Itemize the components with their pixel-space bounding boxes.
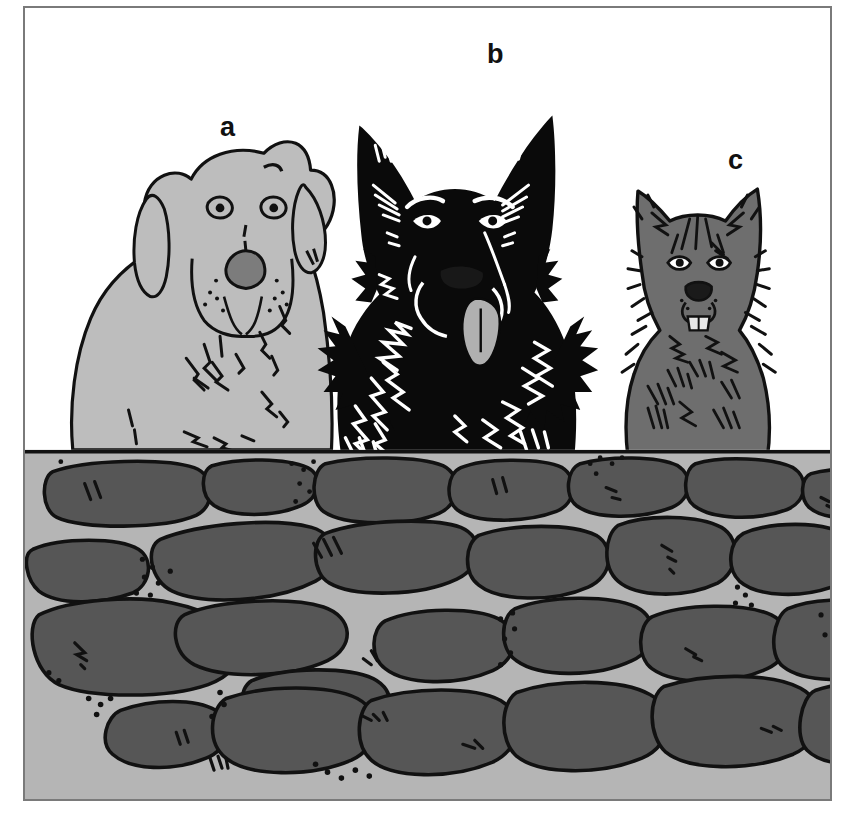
dog-a-ear-left bbox=[134, 195, 169, 296]
stone bbox=[203, 460, 317, 514]
stone bbox=[568, 458, 688, 516]
figure-frame: a b c bbox=[23, 6, 832, 801]
stone bbox=[504, 598, 653, 673]
stone bbox=[641, 606, 788, 681]
dog-c-pupil-left bbox=[676, 259, 684, 267]
panel-label-b: b bbox=[487, 41, 504, 68]
stone bbox=[607, 517, 735, 594]
wall-stones bbox=[26, 458, 830, 775]
stone bbox=[686, 459, 804, 518]
dog-c-pupil-right bbox=[716, 259, 724, 267]
stone bbox=[316, 521, 478, 593]
panel-label-c: c bbox=[728, 147, 743, 174]
stone bbox=[26, 540, 148, 601]
dog-b-pupil-left bbox=[423, 216, 432, 225]
stone bbox=[774, 600, 830, 680]
dog-a-pupil-left bbox=[216, 204, 225, 213]
dog-a-pupil-right bbox=[269, 204, 278, 213]
dog-a-nose bbox=[226, 251, 265, 289]
illustration-canvas bbox=[25, 8, 830, 799]
dog-b-pupil-right bbox=[488, 216, 497, 225]
stone bbox=[175, 601, 347, 675]
stone bbox=[314, 458, 457, 523]
stone bbox=[449, 460, 573, 520]
stone bbox=[213, 688, 376, 773]
figure-container: a b c bbox=[0, 0, 852, 823]
stone bbox=[652, 676, 819, 766]
stone bbox=[374, 610, 514, 681]
stone bbox=[44, 461, 210, 526]
stone bbox=[731, 524, 830, 594]
dog-c-nose bbox=[686, 282, 712, 300]
stone bbox=[359, 690, 517, 775]
stone-wall bbox=[25, 450, 830, 799]
panel-label-a: a bbox=[220, 114, 235, 141]
stone bbox=[504, 682, 668, 770]
stone bbox=[468, 526, 609, 598]
